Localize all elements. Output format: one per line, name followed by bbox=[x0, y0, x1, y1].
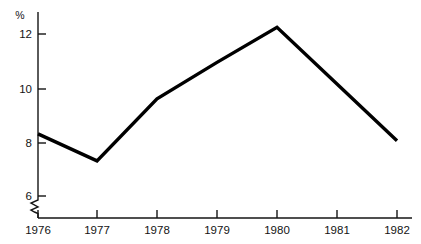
line-chart: % 12 10 8 6 1976 1977 1978 1979 1980 198… bbox=[0, 0, 421, 244]
x-tick-label-1981: 1981 bbox=[324, 224, 350, 236]
x-tick-label-1980: 1980 bbox=[264, 224, 290, 236]
data-series-line bbox=[38, 27, 397, 161]
y-tick-label-6: 6 bbox=[26, 190, 32, 202]
y-axis-unit-label: % bbox=[15, 9, 24, 21]
y-tick-label-8: 8 bbox=[26, 137, 32, 149]
x-tick-label-1977: 1977 bbox=[84, 224, 110, 236]
x-tick-label-1978: 1978 bbox=[144, 224, 170, 236]
chart-container: % 12 10 8 6 1976 1977 1978 1979 1980 198… bbox=[0, 0, 421, 244]
x-tick-label-1982: 1982 bbox=[384, 224, 410, 236]
x-tick-label-1976: 1976 bbox=[25, 224, 51, 236]
y-axis-break-icon bbox=[31, 198, 38, 218]
y-tick-label-12: 12 bbox=[19, 28, 32, 40]
x-tick-label-1979: 1979 bbox=[204, 224, 230, 236]
y-tick-label-10: 10 bbox=[19, 83, 32, 95]
